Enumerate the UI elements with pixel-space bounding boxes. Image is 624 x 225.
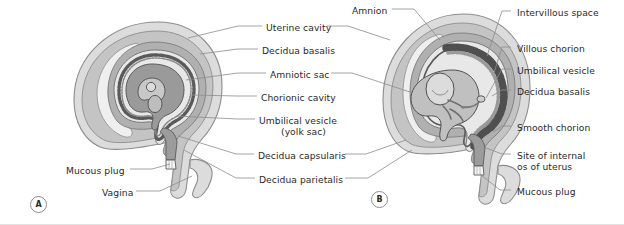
label-intervillous-space: Intervillous space bbox=[517, 7, 599, 18]
label-vagina: Vagina bbox=[102, 187, 133, 198]
umbilical-vesicle-b bbox=[477, 96, 485, 102]
panel-marker-a: A bbox=[30, 196, 47, 213]
leader-mucous-plug-a bbox=[130, 164, 170, 169]
label-uterine-cavity: Uterine cavity bbox=[266, 22, 331, 33]
mucous-plug-b bbox=[474, 166, 484, 175]
umbilical-vesicle-a bbox=[148, 95, 162, 112]
label-amniotic-sac: Amniotic sac bbox=[270, 69, 329, 80]
label-mucous-plug-b: Mucous plug bbox=[517, 186, 576, 197]
label-decidua-basalis-b: Decidua basalis bbox=[517, 86, 590, 97]
anatomy-figure: Uterine cavity Decidua basalis Amniotic … bbox=[0, 0, 624, 225]
label-amnion: Amnion bbox=[352, 5, 387, 16]
label-site-internal-os-line1: Site of internal bbox=[517, 150, 585, 161]
label-mucous-plug-a: Mucous plug bbox=[66, 165, 125, 176]
label-site-internal-os-line2: os of uterus bbox=[517, 161, 572, 172]
label-decidua-basalis-a: Decidua basalis bbox=[262, 45, 335, 56]
label-decidua-capsularis: Decidua capsularis bbox=[258, 150, 346, 161]
embryo-head-a bbox=[146, 82, 155, 91]
label-chorionic-cavity: Chorionic cavity bbox=[261, 92, 336, 103]
label-decidua-parietalis: Decidua parietalis bbox=[259, 174, 343, 185]
vagina-wall-a bbox=[190, 159, 212, 197]
label-yolk-sac: (yolk sac) bbox=[281, 126, 326, 137]
panel-marker-b: B bbox=[371, 191, 388, 208]
label-smooth-chorion: Smooth chorion bbox=[517, 122, 590, 133]
leader-uterine-cavity-b bbox=[327, 26, 390, 40]
label-umbilical-vesicle-b: Umbilical vesicle bbox=[517, 65, 595, 76]
label-villous-chorion: Villous chorion bbox=[517, 43, 585, 54]
panel-b-illustration bbox=[383, 14, 530, 204]
label-umbilical-vesicle-a: Umbilical vesicle bbox=[259, 115, 337, 126]
